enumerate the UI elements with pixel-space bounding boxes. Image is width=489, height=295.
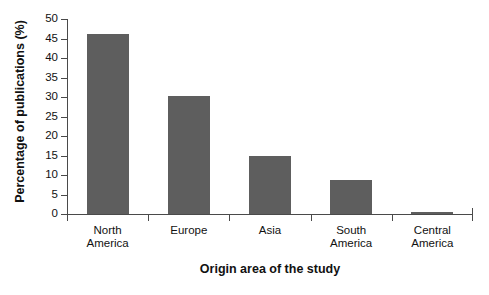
x-category-label-line: North: [67, 224, 148, 237]
x-axis-title: Origin area of the study: [67, 262, 473, 276]
x-axis-line: [67, 214, 473, 215]
y-tick-label: 40: [18, 52, 58, 64]
x-category-label-line: South: [311, 224, 392, 237]
x-category-label-line: America: [67, 237, 148, 250]
x-tick: [229, 214, 230, 221]
x-category-label: Asia: [229, 224, 310, 237]
bar: [411, 212, 453, 214]
y-tick-label: 0: [18, 208, 58, 220]
bar: [249, 156, 291, 214]
y-tick-label: 45: [18, 33, 58, 45]
x-tick: [392, 214, 393, 221]
x-category-label-line: Europe: [148, 224, 229, 237]
x-tick: [67, 214, 68, 221]
bar: [87, 34, 129, 214]
y-tick-label: 35: [18, 72, 58, 84]
x-category-label-line: America: [392, 237, 473, 250]
bar-chart-figure: Percentage of publications (%) 051015202…: [0, 0, 489, 295]
x-category-label: NorthAmerica: [67, 224, 148, 250]
y-tick-label: 15: [18, 150, 58, 162]
x-tick: [311, 214, 312, 221]
y-tick-label: 50: [18, 13, 58, 25]
bar: [168, 96, 210, 214]
x-category-label: Europe: [148, 224, 229, 237]
x-tick: [148, 214, 149, 221]
y-tick-label: 30: [18, 91, 58, 103]
y-tick-label: 5: [18, 189, 58, 201]
y-tick-label: 25: [18, 111, 58, 123]
x-category-label-line: America: [311, 237, 392, 250]
x-category-label-line: Asia: [229, 224, 310, 237]
y-tick-label: 10: [18, 169, 58, 181]
x-category-label: CentralAmerica: [392, 224, 473, 250]
plot-area: [67, 19, 473, 214]
y-tick-label: 20: [18, 130, 58, 142]
x-category-label: SouthAmerica: [311, 224, 392, 250]
bar: [330, 180, 372, 214]
x-category-label-line: Central: [392, 224, 473, 237]
